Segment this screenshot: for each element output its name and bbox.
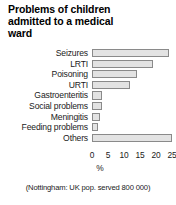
bar bbox=[92, 91, 102, 99]
bar bbox=[92, 134, 172, 142]
bar-track bbox=[92, 59, 176, 70]
bar bbox=[92, 81, 130, 89]
bar-category-label: Others bbox=[0, 133, 92, 144]
bar-category-label: LRTI bbox=[0, 59, 92, 70]
bar-track bbox=[92, 69, 176, 80]
bar-row: LRTI bbox=[0, 59, 176, 70]
x-axis-tick: 5 bbox=[106, 150, 110, 160]
chart-caption: (Nottingham: UK pop. served 800 000) bbox=[0, 183, 176, 192]
x-axis-tick: 15 bbox=[136, 150, 145, 160]
x-axis-tick: 20 bbox=[152, 150, 161, 160]
bar bbox=[92, 113, 100, 121]
bar-category-label: Meningitis bbox=[0, 112, 92, 123]
plot-area: SeizuresLRTIPoisoningURTIGastroenteritis… bbox=[0, 48, 176, 148]
bar bbox=[92, 60, 153, 68]
bar-track bbox=[92, 112, 176, 123]
bar-category-label: URTI bbox=[0, 80, 92, 91]
bar-track bbox=[92, 133, 176, 144]
bar bbox=[92, 70, 137, 78]
bar-row: Poisoning bbox=[0, 69, 176, 80]
bar-track bbox=[92, 122, 176, 133]
bar-row: Feeding problems bbox=[0, 122, 176, 133]
bar-row: Gastroenteritis bbox=[0, 90, 176, 101]
bar-category-label: Poisoning bbox=[0, 69, 92, 80]
x-axis-tick: 25 bbox=[168, 150, 176, 160]
x-axis-tick: 0 bbox=[90, 150, 94, 160]
bar bbox=[92, 102, 102, 110]
bar-row: Social problems bbox=[0, 101, 176, 112]
bar-category-label: Social problems bbox=[0, 101, 92, 112]
bar bbox=[92, 49, 169, 57]
bar-track bbox=[92, 101, 176, 112]
chart-title: Problems of children admitted to a medic… bbox=[8, 3, 140, 40]
bar-row: Others bbox=[0, 133, 176, 144]
bar-track bbox=[92, 48, 176, 59]
bar-category-label: Seizures bbox=[0, 48, 92, 59]
bar-row: URTI bbox=[0, 80, 176, 91]
x-axis-label: % bbox=[0, 163, 176, 173]
bar-row: Meningitis bbox=[0, 112, 176, 123]
bar-track bbox=[92, 90, 176, 101]
bar-category-label: Feeding problems bbox=[0, 122, 92, 133]
x-axis: 0510152025 bbox=[0, 150, 176, 162]
x-axis-tick: 10 bbox=[120, 150, 129, 160]
chart-figure: Problems of children admitted to a medic… bbox=[0, 0, 176, 205]
bar-category-label: Gastroenteritis bbox=[0, 90, 92, 101]
bar bbox=[92, 123, 98, 131]
bar-track bbox=[92, 80, 176, 91]
bar-row: Seizures bbox=[0, 48, 176, 59]
